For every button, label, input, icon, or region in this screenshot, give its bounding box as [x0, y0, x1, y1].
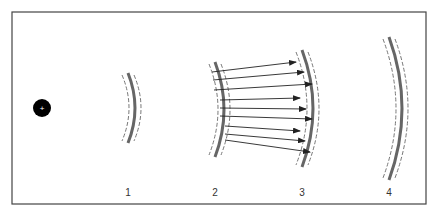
wavefront-label-2: 2 [212, 187, 218, 198]
source-plus-icon: + [40, 104, 45, 113]
wavefront-label-1: 1 [125, 187, 131, 198]
wavefront-label-4: 4 [386, 187, 392, 198]
diagram-frame [12, 12, 426, 204]
wavefront-label-3: 3 [299, 187, 305, 198]
wavefront-diagram: + 1234 [0, 0, 439, 216]
point-source: + [33, 99, 51, 117]
